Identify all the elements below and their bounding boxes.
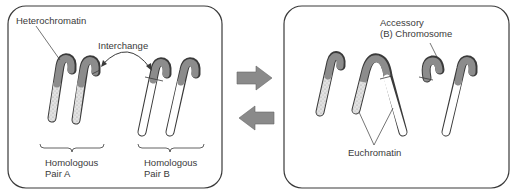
pair-b-label-line1: Homologous <box>144 157 197 168</box>
arrow-left-icon <box>239 106 274 130</box>
accessory-b-chromosome <box>419 60 440 80</box>
euchromatin-label: Euchromatin <box>348 147 401 158</box>
interchange-arrow-icon <box>101 52 152 71</box>
interchange-label: Interchange <box>98 40 148 51</box>
heterochromatin-label: Heterochromatin <box>16 15 86 26</box>
accessory-label-line2: (B) Chromosome <box>380 28 452 39</box>
chromosome-pair-a-1 <box>52 58 72 118</box>
accessory-leader <box>430 43 437 57</box>
chromosome-pair-b-1 <box>142 62 167 132</box>
pair-a-label-line2: Pair A <box>45 168 70 179</box>
arrow-right-icon <box>237 66 272 90</box>
chromosome-pair-b-2 <box>170 62 196 132</box>
chromosome-right-1 <box>320 56 341 112</box>
pair-a-label-line1: Homologous <box>45 157 98 168</box>
accessory-label-line1: Accessory <box>380 17 424 28</box>
chromosome-right-4 <box>446 60 473 132</box>
euchromatin-leader-1 <box>359 112 374 145</box>
brace-pair-a <box>40 144 104 152</box>
chromosome-pair-a-2 <box>76 60 100 120</box>
heterochromatin-leader <box>36 26 60 60</box>
euchromatin-leader-2 <box>374 108 393 145</box>
pair-b-label-line2: Pair B <box>144 168 170 179</box>
brace-pair-b <box>138 144 204 152</box>
